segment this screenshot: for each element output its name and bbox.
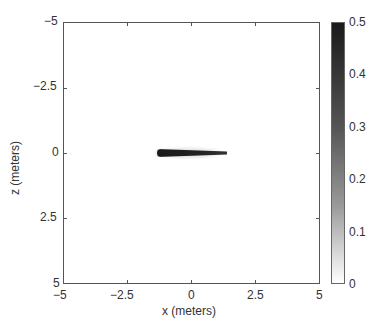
colorbar-tick-label: 0 xyxy=(349,277,356,291)
y-tick-label: 0 xyxy=(52,145,59,159)
tick xyxy=(191,280,192,283)
y-tick-label: −2.5 xyxy=(33,79,57,93)
tick xyxy=(316,88,319,89)
tick xyxy=(64,153,67,154)
colorbar-tick-label: 0.2 xyxy=(349,172,366,186)
x-tick-label: 2.5 xyxy=(247,288,264,302)
plot-area xyxy=(63,22,320,284)
y-tick-label: −5 xyxy=(44,14,58,28)
tick xyxy=(64,218,67,219)
colorbar-tick-label: 0.3 xyxy=(349,120,366,134)
tick xyxy=(127,280,128,283)
colorbar xyxy=(331,22,345,284)
tick xyxy=(255,280,256,283)
tick xyxy=(64,88,67,89)
x-tick-label: 5 xyxy=(316,288,323,302)
x-axis-label: x (meters) xyxy=(162,304,216,318)
x-tick-label: −2.5 xyxy=(110,288,134,302)
x-tick-label: 0 xyxy=(188,288,195,302)
tick xyxy=(127,23,128,26)
tick xyxy=(316,153,319,154)
colorbar-tick-label: 0.5 xyxy=(349,15,366,29)
colorbar-tick-label: 0.4 xyxy=(349,67,366,81)
x-tick-label: −5 xyxy=(53,288,67,302)
y-axis-label: z (meters) xyxy=(8,141,22,195)
tick xyxy=(316,218,319,219)
tick xyxy=(255,23,256,26)
tick xyxy=(191,23,192,26)
y-tick-label: 2.5 xyxy=(40,210,57,224)
colorbar-tick-label: 0.1 xyxy=(349,225,366,239)
